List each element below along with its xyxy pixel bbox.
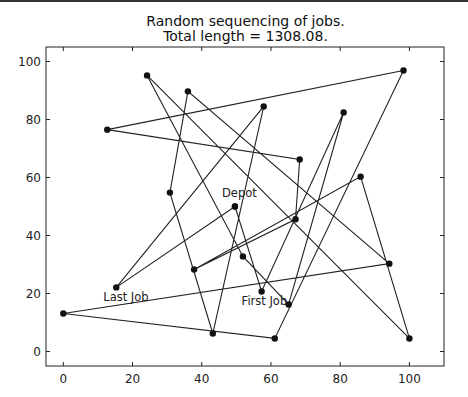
x-tick-label: 40	[194, 372, 209, 386]
job-point-marker	[191, 266, 197, 272]
y-tick-label: 60	[26, 171, 41, 185]
chart-plot: DepotFirst JobLast Job 020406080100 0204…	[0, 0, 468, 397]
job-point-marker	[60, 310, 66, 316]
y-tick-label: 0	[33, 345, 41, 359]
x-tick-label: 100	[398, 372, 421, 386]
y-tick-label: 100	[18, 55, 41, 69]
y-tick-label: 40	[26, 229, 41, 243]
job-point-marker	[292, 216, 298, 222]
annotation-label: Last Job	[103, 290, 148, 304]
job-point-marker	[210, 330, 216, 336]
x-axis: 020406080100	[59, 47, 420, 386]
annotation-label: Depot	[222, 186, 257, 200]
y-axis: 020406080100	[18, 55, 444, 359]
job-point-marker	[185, 88, 191, 94]
job-point-marker	[272, 335, 278, 341]
x-tick-label: 60	[263, 372, 278, 386]
x-tick-label: 0	[59, 372, 67, 386]
job-point-marker	[260, 103, 266, 109]
job-point-marker	[357, 173, 363, 179]
job-point-marker	[296, 156, 302, 162]
y-tick-label: 80	[26, 113, 41, 127]
job-point-marker	[400, 67, 406, 73]
job-point-marker	[340, 109, 346, 115]
annotation-label: First Job	[242, 294, 288, 308]
x-tick-label: 80	[333, 372, 348, 386]
job-point-marker	[406, 335, 412, 341]
job-point-marker	[240, 253, 246, 259]
job-point-marker	[167, 189, 173, 195]
job-point-marker	[144, 72, 150, 78]
y-tick-label: 20	[26, 287, 41, 301]
x-tick-label: 20	[125, 372, 140, 386]
job-point-marker	[232, 203, 238, 209]
job-point-marker	[104, 126, 110, 132]
job-point-marker	[386, 260, 392, 266]
